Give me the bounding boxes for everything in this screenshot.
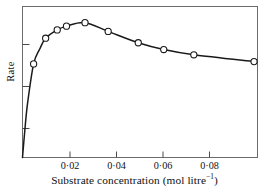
y-axis-label: Rate <box>5 50 16 94</box>
x-axis-label-close: ) <box>214 174 218 186</box>
x-tick-label-1: 0·04 <box>97 160 137 171</box>
data-point-marker <box>82 20 88 26</box>
data-point-marker <box>135 40 141 46</box>
x-axis-label: Substrate concentration (mol litre−1) <box>0 172 269 186</box>
data-point-marker <box>31 61 37 67</box>
data-point-marker <box>63 23 69 29</box>
x-axis-label-text: Substrate concentration (mol litre <box>51 174 206 186</box>
x-tick-label-2: 0·06 <box>143 160 183 171</box>
x-tick-label-3: 0·08 <box>190 160 230 171</box>
x-axis-label-exponent: −1 <box>206 172 214 181</box>
data-point-marker <box>43 35 49 41</box>
data-point-marker <box>54 27 60 33</box>
data-point-marker <box>191 52 197 58</box>
x-tick-label-0: 0·02 <box>50 160 90 171</box>
chart-figure: Rate Substrate concentration (mol litre−… <box>0 0 269 191</box>
data-point-marker <box>251 59 257 65</box>
data-point-marker <box>161 46 167 52</box>
data-point-marker <box>105 28 111 34</box>
